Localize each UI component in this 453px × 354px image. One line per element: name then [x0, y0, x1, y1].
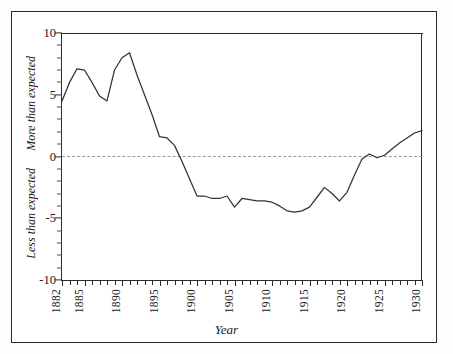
figure-canvas: 1050-5-10 188218851890189519001905191019… — [0, 0, 453, 354]
data-series-layer — [0, 0, 453, 354]
series-line-deviation-from-expected — [62, 53, 422, 212]
